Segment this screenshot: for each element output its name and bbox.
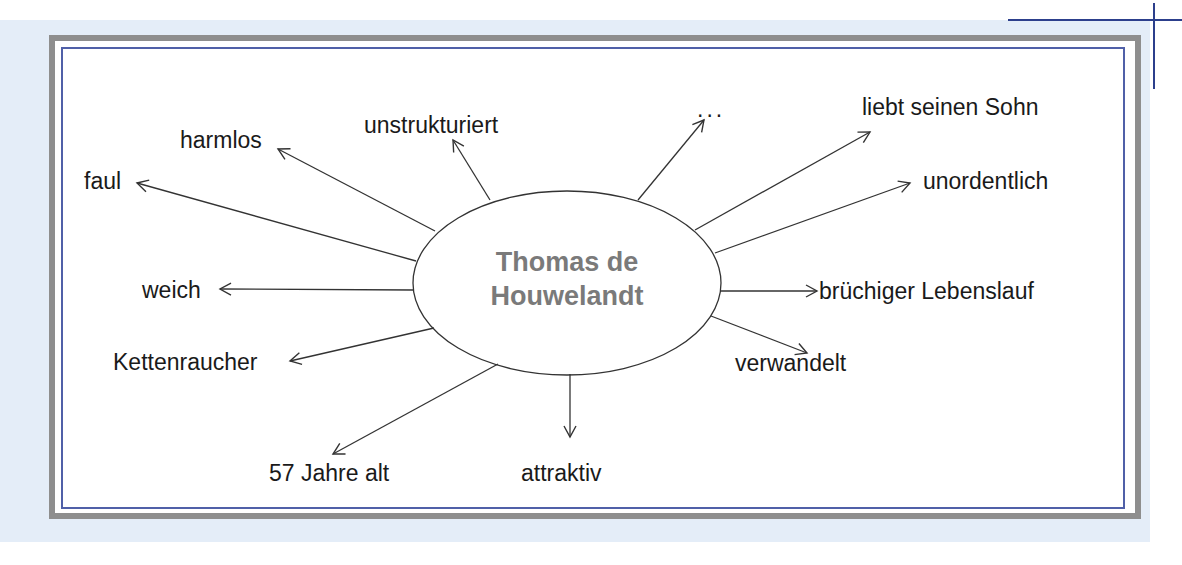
node-bruechiger-lebenslauf: brüchiger Lebenslauf bbox=[819, 280, 1034, 303]
center-label-line2: Houwelandt bbox=[413, 280, 721, 314]
node-weich: weich bbox=[142, 279, 201, 302]
node-unordentlich: unordentlich bbox=[923, 170, 1048, 193]
arrow-faul bbox=[137, 183, 416, 261]
node-attraktiv: attraktiv bbox=[521, 462, 602, 485]
arrow-ellipsis bbox=[638, 120, 704, 200]
node-kettenraucher: Kettenraucher bbox=[113, 351, 257, 374]
node-verwandelt: verwandelt bbox=[735, 352, 846, 375]
arrow-liebt-seinen-sohn bbox=[695, 132, 870, 230]
node-liebt-seinen-sohn: liebt seinen Sohn bbox=[862, 96, 1038, 119]
arrow-57-jahre-alt bbox=[333, 364, 498, 454]
arrow-unstrukturiert bbox=[453, 140, 490, 200]
arrow-unordentlich bbox=[715, 183, 910, 253]
node-harmlos: harmlos bbox=[180, 129, 262, 152]
arrow-verwandelt bbox=[711, 316, 807, 353]
center-node-label: Thomas de Houwelandt bbox=[413, 246, 721, 314]
center-label-line1: Thomas de bbox=[413, 246, 721, 280]
arrow-kettenraucher bbox=[290, 328, 434, 361]
arrow-weich bbox=[220, 289, 413, 290]
node-faul: faul bbox=[84, 170, 121, 193]
node-ellipsis: ... bbox=[697, 98, 725, 121]
arrow-harmlos bbox=[278, 149, 435, 231]
node-57-jahre-alt: 57 Jahre alt bbox=[269, 462, 389, 485]
node-unstrukturiert: unstrukturiert bbox=[364, 114, 498, 137]
